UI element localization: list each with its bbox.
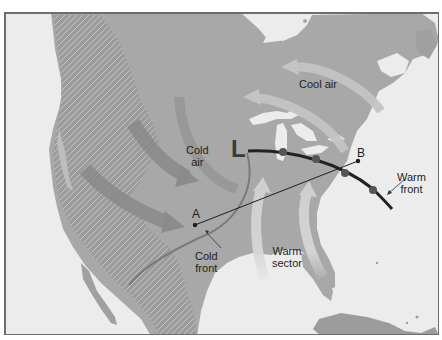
- cold-front-label-line2: front: [195, 262, 218, 274]
- point-a-label: A: [192, 208, 200, 220]
- cold-air-label: Cold air: [186, 144, 209, 168]
- warm-front-label: Warm front: [397, 171, 426, 195]
- cold-air-label-line1: Cold: [186, 144, 209, 156]
- cool-air-label: Cool air: [299, 78, 337, 90]
- warm-sector-label-line1: Warm: [272, 245, 302, 257]
- warm-sector-label: Warm sector: [272, 245, 302, 269]
- warm-front-label-line2: front: [397, 183, 426, 195]
- map-graphic: [5, 13, 439, 335]
- warm-front-label-line1: Warm: [397, 171, 426, 183]
- point-a-dot: [193, 223, 197, 227]
- cold-air-label-line2: air: [186, 156, 209, 168]
- weather-map: L Cold air Cool air Warm sector Warm fro…: [4, 12, 439, 335]
- cold-front-label: Cold front: [195, 250, 218, 274]
- low-pressure-label: L: [231, 137, 246, 161]
- cold-front-label-line1: Cold: [195, 250, 218, 262]
- warm-sector-label-line2: sector: [272, 257, 302, 269]
- point-b-label: B: [357, 147, 365, 159]
